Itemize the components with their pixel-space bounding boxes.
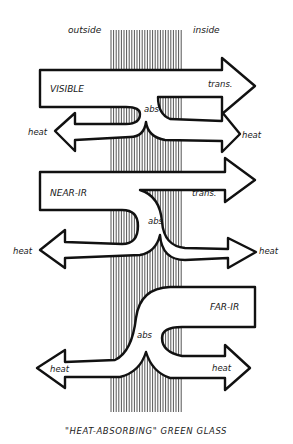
near-ir-trans-label: trans. (192, 188, 217, 198)
visible-heat-left-label: heat (28, 127, 48, 137)
outside-label: outside (68, 25, 102, 35)
far-ir-heat-left-label: heat (50, 364, 70, 374)
visible-trans-label: trans. (208, 79, 233, 89)
far-ir-abs-label: abs (137, 330, 153, 340)
inside-label: inside (193, 25, 220, 35)
near-ir-abs-label: abs (148, 216, 164, 226)
far-ir-label: FAR-IR (210, 302, 239, 312)
visible-abs-label: abs (144, 104, 160, 114)
visible-label: VISIBLE (50, 84, 84, 94)
diagram-caption: "HEAT-ABSORBING" GREEN GLASS (65, 426, 227, 436)
near-ir-heat-left-label: heat (13, 246, 33, 256)
glass-energy-diagram: outside inside VISIBLE trans. abs heat h… (0, 0, 293, 444)
near-ir-heat-right-label: heat (259, 246, 279, 256)
visible-heat-right-label: heat (242, 130, 262, 140)
near-ir-band (40, 158, 256, 268)
near-ir-label: NEAR-IR (50, 188, 87, 198)
far-ir-heat-right-label: heat (212, 363, 232, 373)
